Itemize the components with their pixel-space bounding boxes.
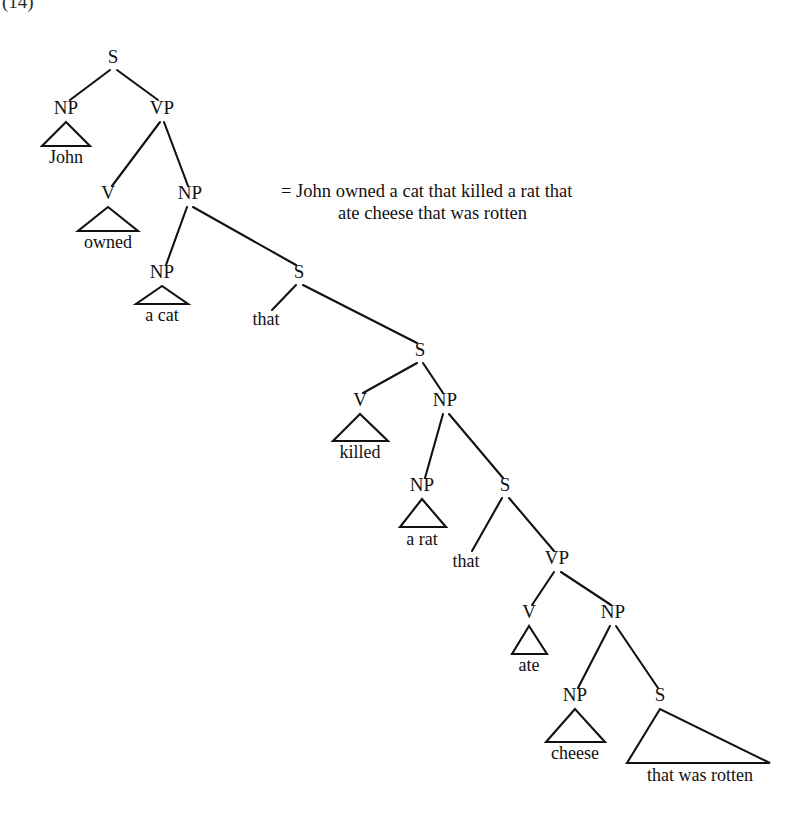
tree-branch-NP4-NP5 bbox=[425, 414, 443, 478]
terminal-label-that2: that bbox=[453, 551, 480, 571]
terminal-label-tri-cheese: cheese bbox=[551, 743, 599, 763]
terminal-label-tri-rotten: that was rotten bbox=[647, 765, 753, 785]
tree-node-S5: S bbox=[655, 684, 666, 705]
tree-node-NP5: NP bbox=[410, 474, 434, 495]
tree-node-NP6: NP bbox=[601, 601, 625, 622]
figure-canvas: (14) SNPVPVNPNPSSVNPNPSVPVNPNPS Johnowne… bbox=[0, 0, 802, 814]
triangle-tri-cheese bbox=[546, 709, 605, 742]
triangle-tri-arat bbox=[400, 499, 446, 527]
tree-branch-VP1-NP2 bbox=[164, 122, 188, 186]
tree-node-V2: V bbox=[353, 389, 367, 410]
tree-nodes-group: SNPVPVNPNPSSVNPNPSVPVNPNPS bbox=[54, 46, 665, 705]
tree-node-NP1: NP bbox=[54, 97, 78, 118]
tree-node-S1: S bbox=[108, 46, 119, 67]
tree-branch-S4-VP2 bbox=[509, 498, 554, 551]
tree-node-S4: S bbox=[500, 474, 511, 495]
tree-branch-VP1-V1 bbox=[112, 122, 160, 186]
triangle-tri-acat bbox=[136, 286, 188, 304]
tree-node-VP1: VP bbox=[150, 97, 174, 118]
tree-node-S3: S bbox=[415, 339, 426, 360]
triangle-tri-rotten bbox=[627, 709, 770, 763]
tree-branch-NP6-NP7 bbox=[578, 626, 610, 688]
triangle-tri-ate bbox=[512, 626, 547, 654]
tree-node-NP4: NP bbox=[433, 389, 457, 410]
triangle-tri-john bbox=[42, 122, 90, 146]
terminal-label-tri-owned: owned bbox=[84, 232, 132, 252]
tree-branch-NP2-NP3 bbox=[166, 207, 187, 265]
tree-branch-S4-that2 bbox=[472, 498, 502, 551]
tree-branch-S2-S3 bbox=[303, 285, 417, 343]
tree-node-NP7: NP bbox=[563, 684, 587, 705]
tree-branches-group bbox=[70, 70, 658, 688]
tree-branch-S2-that1 bbox=[272, 285, 296, 310]
terminal-label-that1: that bbox=[253, 309, 280, 329]
tree-branch-S1-NP1 bbox=[70, 70, 110, 100]
tree-branch-S1-VP1 bbox=[117, 70, 158, 100]
tree-node-V3: V bbox=[522, 601, 536, 622]
terminal-label-tri-ate: ate bbox=[519, 655, 540, 675]
syntax-tree-diagram: SNPVPVNPNPSSVNPNPSVPVNPNPS Johnowneda ca… bbox=[0, 0, 802, 814]
tree-branch-NP2-S2 bbox=[193, 207, 296, 265]
gloss-line-1: = John owned a cat that killed a rat tha… bbox=[281, 180, 572, 202]
tree-branch-NP6-S5 bbox=[616, 626, 658, 688]
terminal-label-tri-killed: killed bbox=[340, 442, 381, 462]
triangle-tri-killed bbox=[333, 414, 388, 441]
tree-node-VP2: VP bbox=[545, 547, 569, 568]
tree-terminals-group: Johnowneda catkilleda ratatecheesethat w… bbox=[49, 147, 753, 785]
triangle-tri-owned bbox=[78, 207, 138, 231]
terminal-label-tri-arat: a rat bbox=[406, 529, 437, 549]
tree-node-S2: S bbox=[294, 261, 305, 282]
tree-node-NP3: NP bbox=[150, 261, 174, 282]
tree-branch-S3-V2 bbox=[363, 363, 417, 393]
terminal-label-tri-john: John bbox=[49, 147, 83, 167]
tree-node-V1: V bbox=[101, 182, 115, 203]
gloss-line-2: ate cheese that was rotten bbox=[338, 202, 527, 224]
tree-node-NP2: NP bbox=[178, 182, 202, 203]
terminal-label-tri-acat: a cat bbox=[145, 305, 178, 325]
tree-branch-NP4-S4 bbox=[449, 414, 503, 478]
